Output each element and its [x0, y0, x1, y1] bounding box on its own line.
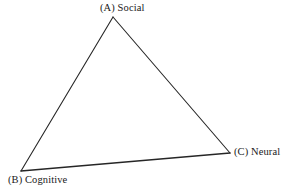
edge-social-cognitive [21, 17, 113, 171]
vertex-label-social: (A) Social [100, 2, 144, 14]
triangle-diagram-figure: (A) Social (B) Cognitive (C) Neural [0, 0, 291, 192]
vertex-label-neural: (C) Neural [234, 146, 280, 158]
edge-cognitive-neural [21, 153, 230, 171]
triangle-graphic [0, 0, 291, 192]
vertex-label-cognitive: (B) Cognitive [8, 174, 67, 186]
edge-social-neural [113, 17, 230, 153]
